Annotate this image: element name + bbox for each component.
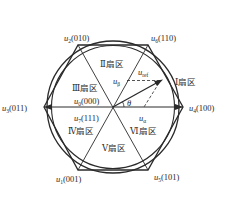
theta-arc [123, 102, 125, 107]
label-u3: u3(011) [2, 103, 27, 114]
label-u4: u4(100) [189, 103, 215, 114]
label-ualpha: uα [139, 113, 146, 124]
ualpha-projection [144, 83, 159, 107]
sector-label-6: Ⅵ扇区 [129, 126, 157, 136]
sector-label-4: Ⅳ扇区 [68, 126, 95, 136]
sector-label-1: Ⅰ扇区 [175, 77, 196, 87]
label-theta: θ [127, 98, 131, 108]
sector-label-5: Ⅴ扇区 [101, 143, 126, 153]
label-ubeta: uβ [113, 76, 120, 87]
label-u2: u2(010) [64, 33, 90, 44]
label-u1: u1(001) [56, 174, 82, 185]
label-u6: u6(110) [151, 33, 176, 44]
svpwm-sector-diagram: u2(010) u6(110) u3(011) u4(100) u1(001) … [0, 0, 230, 199]
sector-label-2: Ⅱ扇区 [100, 59, 124, 69]
label-u5: u5(101) [154, 172, 180, 183]
label-u7: u7(111) [74, 113, 99, 124]
sector-label-3: Ⅲ扇区 [72, 83, 98, 93]
label-u0: u0(000) [74, 96, 100, 107]
label-uref: uref [138, 67, 149, 78]
